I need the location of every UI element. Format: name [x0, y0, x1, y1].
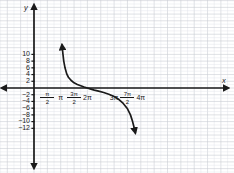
fraction-numerator: π [40, 91, 54, 97]
x-tick-label: π2 [40, 91, 54, 106]
y-tick-label: −12 [18, 124, 30, 131]
coordinate-plane [0, 0, 234, 173]
fraction-denominator: 2 [40, 99, 54, 105]
x-tick-label: 7π2 [120, 91, 134, 106]
x-tick-label: 3π [107, 94, 121, 101]
fraction-denominator: 2 [120, 99, 134, 105]
y-tick-label: 2 [26, 77, 30, 84]
y-axis-label: y [24, 3, 28, 12]
fraction-numerator: 7π [120, 91, 134, 97]
grid-lines [0, 0, 234, 173]
x-tick-label: 2π [80, 94, 94, 101]
x-tick-label: 3π2 [67, 91, 81, 106]
x-tick-label: π [54, 94, 68, 101]
x-tick-label: 4π [134, 94, 148, 101]
x-axis-label: x [222, 76, 226, 85]
fraction-numerator: 3π [67, 91, 81, 97]
fraction-denominator: 2 [67, 99, 81, 105]
graph-canvas: 108642−2−4−6−8−10−12π2π3π22π3π7π24πxy [0, 0, 234, 173]
